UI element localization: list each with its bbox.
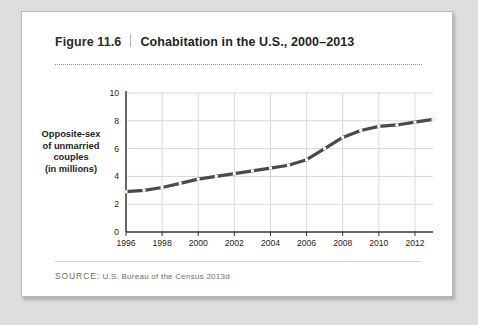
x-tick-label: 2010	[369, 238, 388, 248]
data-point-marker	[287, 164, 290, 167]
data-point-marker	[341, 136, 344, 139]
y-tick-label: 4	[114, 171, 119, 181]
data-point-marker	[395, 123, 398, 126]
data-point-marker	[215, 175, 218, 178]
y-axis-label: Opposite-sex of unmarried couples (in mi…	[28, 129, 114, 175]
source-value: U.S. Bureau of the Census 2013d	[100, 272, 230, 281]
data-point-marker	[305, 158, 308, 161]
y-axis-label-line-2: of unmarried	[28, 141, 114, 153]
source-divider	[55, 261, 422, 262]
y-tick-label: 8	[114, 116, 119, 126]
data-point-marker	[197, 178, 200, 181]
data-point-marker	[161, 186, 164, 189]
data-point-marker	[432, 118, 435, 121]
y-axis-label-line-3: couples	[28, 152, 114, 164]
x-tick-label: 2004	[261, 238, 280, 248]
source-note: SOURCE: U.S. Bureau of the Census 2013d	[55, 271, 230, 281]
data-point-marker	[125, 190, 128, 193]
x-tick-label: 2000	[189, 238, 208, 248]
data-point-marker	[143, 189, 146, 192]
x-tick-label: 2008	[333, 238, 352, 248]
x-tick-label: 2012	[405, 238, 424, 248]
x-tick-label: 2006	[297, 238, 316, 248]
figure-card: Figure 11.6 Cohabitation in the U.S., 20…	[21, 11, 453, 297]
y-tick-label: 2	[114, 199, 119, 209]
y-tick-label: 10	[109, 88, 119, 98]
data-point-marker	[413, 121, 416, 124]
data-point-marker	[377, 125, 380, 128]
x-tick-label: 2002	[225, 238, 244, 248]
x-tick-label: 1998	[153, 238, 172, 248]
data-point-marker	[323, 147, 326, 150]
data-point-marker	[233, 172, 236, 175]
y-tick-label: 0	[114, 227, 119, 237]
data-line	[126, 119, 433, 191]
chart-plot-area: Opposite-sex of unmarried couples (in mi…	[22, 12, 454, 298]
data-point-marker	[179, 182, 182, 185]
y-tick-label: 6	[114, 144, 119, 154]
data-point-marker	[359, 129, 362, 132]
y-axis-label-line-4: (in millions)	[28, 164, 114, 176]
data-point-marker	[269, 167, 272, 170]
x-tick-label: 1996	[116, 238, 135, 248]
y-axis-label-line-1: Opposite-sex	[28, 129, 114, 141]
data-point-marker	[251, 169, 254, 172]
source-label: SOURCE:	[55, 271, 100, 281]
